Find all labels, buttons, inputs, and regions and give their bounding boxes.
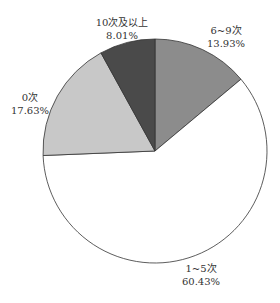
label-value: 8.01% — [106, 30, 138, 41]
slice-label-10-plus: 10次及以上 8.01% — [96, 16, 149, 41]
label-name: 6~9次 — [210, 24, 241, 36]
pie-slices — [43, 39, 267, 263]
label-name: 1~5次 — [185, 262, 216, 274]
label-value: 17.63% — [11, 105, 49, 116]
label-value: 60.43% — [182, 276, 220, 287]
label-value: 13.93% — [207, 38, 245, 49]
slice-label-0: 0次 17.63% — [11, 91, 49, 116]
label-name: 10次及以上 — [96, 16, 149, 28]
pie-chart: 6~9次 13.93% 1~5次 60.43% 0次 17.63% 10次及以上… — [0, 0, 280, 303]
slice-label-1-5: 1~5次 60.43% — [182, 262, 220, 287]
label-name: 0次 — [22, 91, 38, 103]
slice-label-6-9: 6~9次 13.93% — [207, 24, 245, 49]
